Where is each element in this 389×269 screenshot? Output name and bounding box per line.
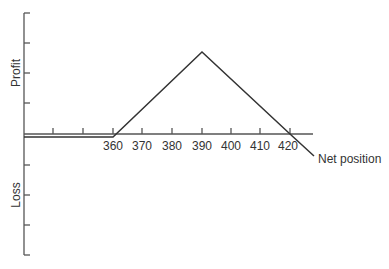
x-tick-label: 400 — [221, 139, 241, 153]
loss-label: Loss — [9, 182, 23, 207]
x-tick-label: 420 — [278, 139, 298, 153]
x-tick-labels: 360 370 380 390 400 410 420 — [103, 139, 298, 153]
net-position-label: Net position — [318, 152, 381, 166]
x-tick-label: 360 — [103, 139, 123, 153]
x-tick-label: 380 — [162, 139, 182, 153]
x-tick-label: 390 — [192, 139, 212, 153]
x-tick-label: 410 — [250, 139, 270, 153]
profit-label: Profit — [9, 58, 23, 87]
x-axis — [24, 128, 313, 134]
payoff-chart: 360 370 380 390 400 410 420 Net position… — [0, 0, 389, 269]
x-tick-label: 370 — [132, 139, 152, 153]
